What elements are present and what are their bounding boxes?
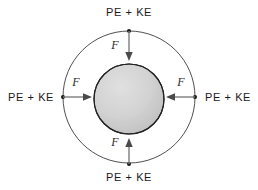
force-label-top: F <box>110 38 119 52</box>
force-arrow-left-head <box>83 93 92 100</box>
force-label-right: F <box>176 75 185 89</box>
annotation-left: PE + KE F <box>8 75 92 103</box>
force-label-bottom: F <box>110 135 119 149</box>
physics-diagram: PE + KE F PE + KE F PE + KE F PE + KE <box>0 0 258 190</box>
force-arrow-bottom-head <box>125 138 132 147</box>
energy-label-right: PE + KE <box>205 91 251 103</box>
force-arrow-top-head <box>125 52 132 61</box>
energy-label-bottom: PE + KE <box>106 171 152 183</box>
energy-label-top: PE + KE <box>106 6 152 18</box>
annotation-right: PE + KE F <box>166 75 251 103</box>
central-sphere <box>94 64 172 146</box>
force-label-left: F <box>71 75 80 89</box>
energy-label-left: PE + KE <box>8 91 54 103</box>
annotation-bottom: PE + KE F <box>106 135 152 183</box>
force-arrow-right-head <box>166 93 175 100</box>
annotation-top: PE + KE F <box>106 6 152 61</box>
